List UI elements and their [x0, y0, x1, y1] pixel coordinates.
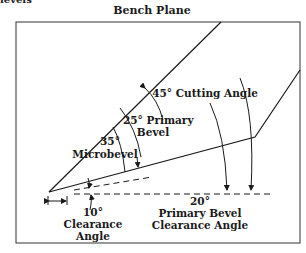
clearance-angle-value: 10° [83, 206, 103, 218]
blade-outline [49, 22, 300, 192]
primary-bevel-clearance-value: 20° [190, 195, 210, 207]
primary-bevel-angle-label: 25° Primary [123, 114, 194, 126]
microbevel-angle-label: 35° [100, 135, 120, 147]
diagram-title: Bench Plane [113, 4, 190, 17]
primary-bevel-clearance-word1: Primary Bevel [159, 207, 242, 219]
bench-plane-diagram: levels Bench Plane [0, 0, 306, 253]
reference-lines [74, 177, 272, 194]
cutting-angle-label: 45° Cutting Angle [152, 87, 258, 99]
clearance-angle-word2: Angle [75, 230, 110, 242]
microbevel-word-label: Microbevel [72, 148, 137, 160]
cropped-caption-fragment: levels [0, 0, 32, 5]
primary-bevel-clearance-word2: Clearance Angle [152, 219, 249, 231]
edge-width-dimension [48, 196, 67, 205]
clearance-angle-word1: Clearance [64, 218, 123, 230]
primary-bevel-word-label: Bevel [137, 126, 169, 138]
